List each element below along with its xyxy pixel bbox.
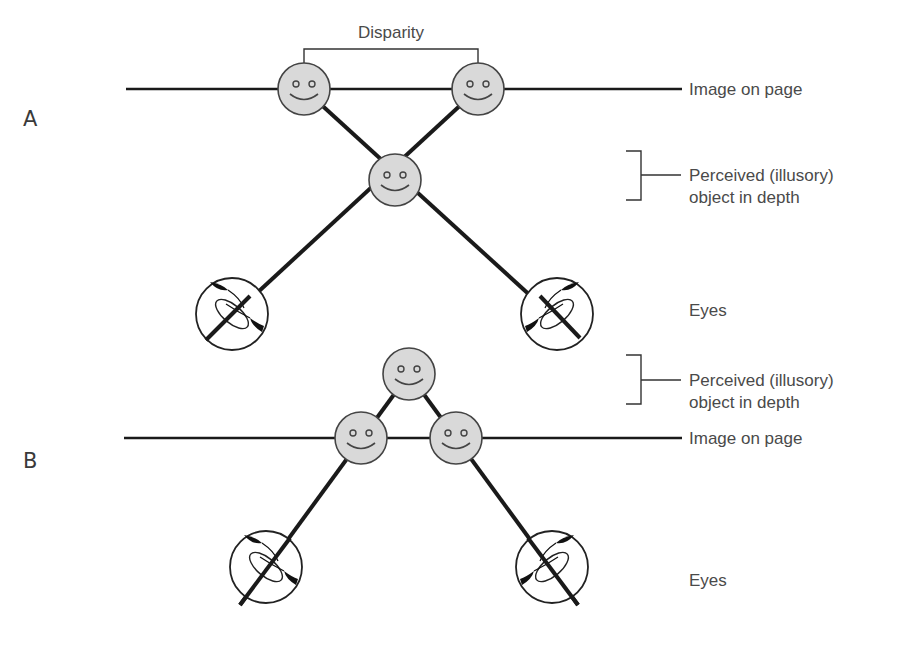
panel-a-perceived-face-icon xyxy=(369,154,421,206)
disparity-label: Disparity xyxy=(358,23,425,42)
panel-a-image-on-page-label: Image on page xyxy=(689,80,802,99)
panel-b-depth-bracket xyxy=(626,355,681,404)
panel-a-perceived-label-line2: object in depth xyxy=(689,188,800,207)
panel-a-perceived-label-line1: Perceived (illusory) xyxy=(689,166,834,185)
panel-a-depth-bracket xyxy=(626,151,681,200)
panel-b-perceived-label-line1: Perceived (illusory) xyxy=(689,371,834,390)
stereo-depth-diagram: A Disparity Image on page Perceived (ill… xyxy=(0,0,909,663)
panel-b: B Perceived (illusory) object in depth I… xyxy=(23,348,834,605)
panel-a-eyes-label: Eyes xyxy=(689,301,727,320)
panel-b-perceived-face-icon xyxy=(383,348,435,400)
panel-b-perceived-label-line2: object in depth xyxy=(689,393,800,412)
panel-a: A Disparity Image on page Perceived (ill… xyxy=(23,23,834,350)
disparity-bracket xyxy=(304,49,478,63)
panel-b-label: B xyxy=(23,449,37,473)
panel-b-left-image-face-icon xyxy=(335,412,387,464)
panel-a-left-image-face-icon xyxy=(278,63,330,115)
panel-b-image-on-page-label: Image on page xyxy=(689,429,802,448)
panel-b-right-image-face-icon xyxy=(430,412,482,464)
panel-a-right-image-face-icon xyxy=(452,63,504,115)
panel-a-label: A xyxy=(23,107,38,131)
panel-b-eyes-label: Eyes xyxy=(689,571,727,590)
